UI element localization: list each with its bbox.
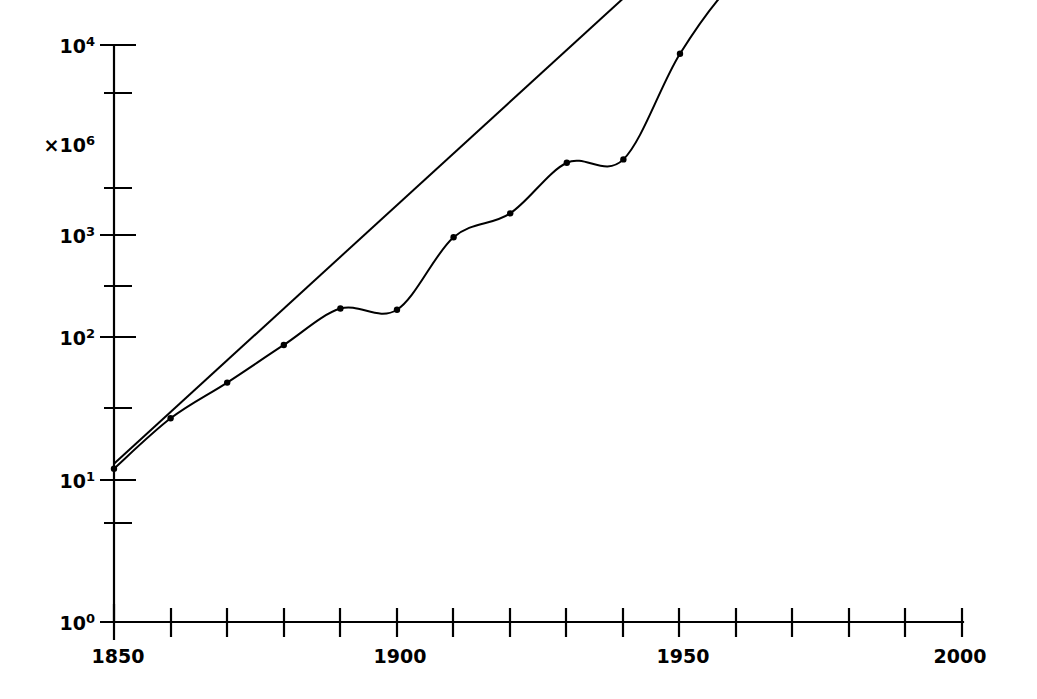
x-tick-label-1950: 1950 bbox=[657, 645, 710, 667]
series-trend-line bbox=[114, 0, 680, 464]
data-point-marker bbox=[224, 379, 230, 385]
y-tick-label-10e4: 104 bbox=[60, 34, 96, 57]
x-axis-labels: 1850 1900 1950 2000 bbox=[92, 645, 987, 667]
data-point-marker bbox=[507, 210, 513, 216]
data-point-marker bbox=[281, 342, 287, 348]
y-axis-scale-annotation: ×106 bbox=[44, 133, 95, 156]
chart-container: 104 103 102 101 100 ×106 1850 1900 1950 … bbox=[0, 0, 1037, 699]
y-tick-label-10e2: 102 bbox=[60, 326, 96, 349]
y-tick-label-10e0: 100 bbox=[60, 611, 96, 634]
data-point-marker bbox=[111, 465, 117, 471]
y-axis-labels: 104 103 102 101 100 bbox=[60, 34, 96, 634]
axes bbox=[114, 45, 963, 622]
series-data-curve bbox=[111, 0, 797, 472]
data-point-marker bbox=[677, 50, 683, 56]
data-point-marker bbox=[564, 160, 570, 166]
trend-line-path bbox=[114, 0, 680, 464]
data-point-marker bbox=[337, 305, 343, 311]
data-point-marker bbox=[450, 234, 456, 240]
x-tick-label-1900: 1900 bbox=[374, 645, 427, 667]
y-tick-label-10e1: 101 bbox=[60, 469, 96, 492]
y-axis-ticks bbox=[100, 45, 136, 622]
x-tick-label-2000: 2000 bbox=[934, 645, 987, 667]
y-axis-minor-ticks bbox=[104, 93, 132, 523]
data-point-marker bbox=[620, 156, 626, 162]
data-point-markers bbox=[111, 0, 797, 472]
semilog-line-chart: 104 103 102 101 100 ×106 1850 1900 1950 … bbox=[0, 0, 1037, 699]
data-point-marker bbox=[167, 415, 173, 421]
x-tick-label-1850: 1850 bbox=[92, 645, 145, 667]
y-tick-label-10e3: 103 bbox=[60, 224, 96, 247]
data-point-marker bbox=[394, 307, 400, 313]
